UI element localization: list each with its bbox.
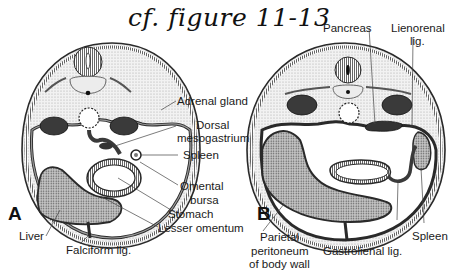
omental-bursa-a	[93, 165, 135, 191]
label-bursa: bursa	[190, 194, 219, 206]
label-peritoneum: peritoneum	[251, 245, 309, 257]
label-spleen-a: Spleen	[183, 149, 219, 161]
left-kidney-a	[40, 117, 68, 135]
aorta-a	[79, 108, 99, 128]
notochord-b	[346, 90, 350, 94]
label-mesogastrium: mesogastrium	[177, 132, 249, 144]
label-spleen-b: Spleen	[412, 230, 448, 242]
falciform-ligament-b	[345, 222, 347, 240]
left-kidney-b	[287, 95, 317, 115]
aorta-b	[339, 103, 359, 123]
label-of-body-wall: of body wall	[249, 258, 310, 270]
notochord-a	[86, 91, 91, 96]
right-kidney-a	[110, 117, 138, 135]
label-lienorenal: Lienorenal	[391, 22, 445, 34]
right-kidney-b	[382, 95, 412, 115]
label-pancreas: Pancreas	[323, 22, 372, 34]
figure-b	[247, 43, 445, 252]
label-lig: lig.	[410, 35, 425, 47]
falciform-ligament-a	[88, 222, 90, 238]
label-lesser-omentum: Lesser omentum	[158, 222, 244, 234]
figure-reference-title: cf. figure 11-13	[128, 3, 330, 32]
pancreas-b	[365, 121, 402, 131]
label-falciform-lig: Falciform lig.	[66, 244, 131, 256]
label-dorsal: Dorsal	[196, 119, 229, 131]
label-stomach-a: Stomach	[168, 208, 213, 220]
label-adrenal-gland: Adrenal gland	[177, 95, 248, 107]
label-gastrolienal-lig: Gastrolienal lig.	[323, 245, 402, 257]
panel-label-a: A	[8, 203, 22, 225]
panel-label-b: B	[257, 203, 271, 225]
label-liver-a: Liver	[19, 230, 44, 242]
label-parietal: Parietal	[260, 231, 299, 243]
label-omental: Omental	[180, 180, 223, 192]
